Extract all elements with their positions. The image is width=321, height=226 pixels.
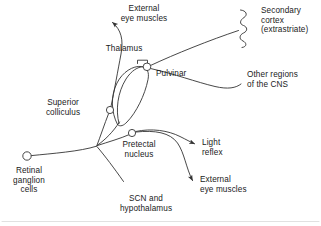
label-other-regions-cns: Other regions of the CNS [247,70,321,89]
label-pretectal-nucleus: Pretectal nucleus [110,140,168,159]
secondary-cortex-wavy-icon [240,10,247,48]
label-pulvinar: Pulvinar [156,69,208,79]
node-pretectal-nucleus [128,129,135,136]
label-scn-hypothalamus: SCN and hypothalamus [108,194,184,213]
label-light-reflex: Light reflex [202,138,246,157]
path-colliculus-to-eye-muscles [111,23,122,107]
path-retina-to-junction [32,146,97,155]
label-external-eye-muscles-top: External eye muscles [101,4,187,23]
node-pulvinar [143,63,151,71]
path-pulvinar-to-secondary-cortex [151,31,239,66]
label-thalamus: Thalamus [95,44,153,54]
node-retinal-ganglion-cells [23,152,31,160]
label-retinal-ganglion-cells: Retinal ganglion cells [3,166,55,195]
figure-canvas: External eye muscles Secondary cortex (e… [0,0,321,226]
label-superior-colliculus: Superior colliculus [33,98,93,117]
thalamus-inner-fold [117,67,142,124]
label-secondary-cortex: Secondary cortex (extrastriate) [261,6,321,35]
label-external-eye-muscles-bottom: External eye muscles [200,175,278,194]
node-superior-colliculus [106,106,113,113]
